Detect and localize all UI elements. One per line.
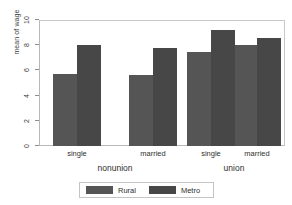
y-tick-label: 0 — [21, 140, 33, 152]
legend-entry-metro: Metro — [149, 183, 200, 197]
y-tick-label: 2 — [21, 115, 33, 127]
bar-metro-0 — [77, 45, 101, 146]
bar-metro-2 — [211, 30, 235, 146]
bars-layer — [39, 20, 285, 146]
x-tick-label: single — [186, 149, 236, 158]
x-tick-label: married — [128, 149, 178, 158]
legend-swatch-metro-icon — [149, 186, 176, 194]
bar-rural-2 — [187, 52, 211, 147]
x-tick-label: single — [52, 149, 102, 158]
y-axis-title: mean of wage — [13, 2, 25, 62]
x-group-label: union — [199, 163, 269, 173]
bar-rural-3 — [233, 45, 257, 146]
y-tick-label: 6 — [21, 64, 33, 76]
legend: Rural Metro — [79, 182, 214, 198]
x-tick-label: married — [232, 149, 282, 158]
bar-rural-0 — [53, 74, 77, 146]
bar-metro-1 — [153, 48, 177, 146]
y-tick-label: 4 — [21, 90, 33, 102]
bar-rural-1 — [129, 75, 153, 146]
legend-label-metro: Metro — [181, 186, 200, 195]
y-tick-label: 10 — [21, 14, 33, 26]
legend-swatch-rural-icon — [86, 186, 113, 194]
legend-entry-rural: Rural — [86, 183, 136, 197]
x-group-label: nonunion — [80, 163, 150, 173]
legend-label-rural: Rural — [118, 186, 136, 195]
bar-chart: mean of wage 1086420 singlemarriedsingle… — [0, 0, 292, 205]
bar-metro-3 — [257, 38, 281, 146]
y-tick-label: 8 — [21, 39, 33, 51]
